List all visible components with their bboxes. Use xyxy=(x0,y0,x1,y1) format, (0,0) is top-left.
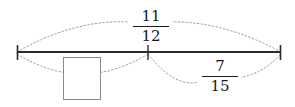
right-segment-fraction-numerator: 7 xyxy=(202,59,238,75)
unknown-value-answer-box[interactable] xyxy=(63,57,101,100)
total-length-fraction-label: 11 12 xyxy=(130,9,172,44)
right-segment-fraction-denominator: 15 xyxy=(202,78,238,94)
right-segment-arc-right xyxy=(236,54,281,78)
right-segment-arc-left xyxy=(148,54,198,83)
total-fraction-denominator: 12 xyxy=(133,28,169,44)
right-segment-fraction-label: 7 15 xyxy=(199,59,241,94)
fraction-number-line-figure: 11 12 7 15 xyxy=(0,0,295,107)
total-fraction-numerator: 11 xyxy=(133,9,169,25)
total-arc-right xyxy=(167,22,281,52)
total-arc-left xyxy=(17,22,129,52)
